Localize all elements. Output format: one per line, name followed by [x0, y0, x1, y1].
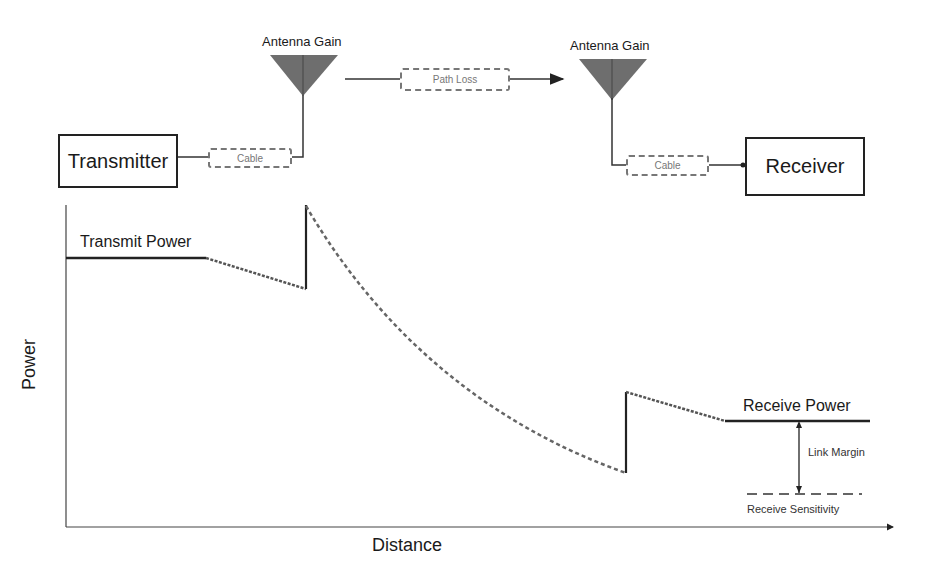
- receive-sensitivity-label: Receive Sensitivity: [747, 504, 839, 515]
- path-loss-box: Path Loss: [400, 68, 510, 91]
- transmitter-box: Transmitter: [58, 134, 178, 188]
- receiver-label: Receiver: [766, 155, 845, 178]
- y-axis-label: Power: [20, 339, 38, 390]
- tx-cable-label: Cable: [237, 153, 263, 164]
- rx-antenna-icon: [579, 59, 647, 100]
- receiver-box: Receiver: [745, 137, 865, 196]
- path-loss-label: Path Loss: [433, 74, 477, 85]
- tx-antenna-icon: [270, 55, 338, 96]
- x-axis-label: Distance: [372, 536, 442, 554]
- rx-cable-box: Cable: [626, 155, 709, 176]
- transmit-power-label: Transmit Power: [80, 234, 191, 250]
- link-margin-label: Link Margin: [808, 447, 865, 458]
- rx-antenna-label: Antenna Gain: [570, 39, 650, 52]
- tx-cable-box: Cable: [208, 148, 292, 168]
- link-margin-arrow: [796, 421, 802, 493]
- transmitter-label: Transmitter: [68, 150, 168, 173]
- plot-axes: [66, 205, 893, 527]
- tx-antenna-label: Antenna Gain: [262, 35, 342, 48]
- receive-power-label: Receive Power: [743, 398, 851, 414]
- rx-cable-label: Cable: [654, 160, 680, 171]
